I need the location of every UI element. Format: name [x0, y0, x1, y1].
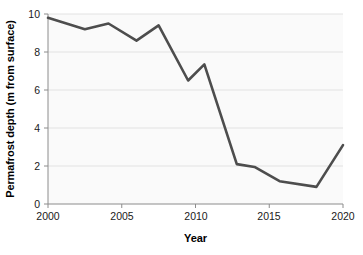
permafrost-depth-line-chart: Permafrost depth (m from surface) Year 1… [0, 0, 363, 255]
plot-background [48, 14, 343, 204]
plot-area [0, 0, 363, 255]
